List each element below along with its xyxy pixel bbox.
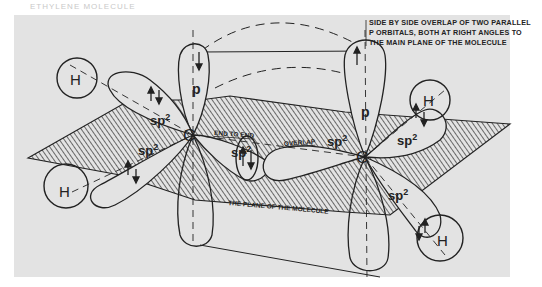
carbon-left-label: C <box>183 126 195 145</box>
hydrogen-label-br: H <box>437 232 448 249</box>
caption-line-2: P ORBITALS, BOTH AT RIGHT ANGLES TO <box>369 28 531 38</box>
caption-line-3: THE MAIN PLANE OF THE MOLECULE <box>369 38 531 48</box>
hydrogen-label-tl: H <box>70 71 81 88</box>
hydrogen-label-bl: H <box>59 183 70 200</box>
hydrogen-label-tr: H <box>423 92 434 109</box>
carbon-right-label: C <box>356 148 368 167</box>
p-label-right: p <box>361 104 370 120</box>
caption-text: SIDE BY SIDE OVERLAP OF TWO PARALLEL P O… <box>369 18 531 48</box>
caption-line-1: SIDE BY SIDE OVERLAP OF TWO PARALLEL <box>369 18 531 28</box>
p-label-left: p <box>192 81 201 97</box>
